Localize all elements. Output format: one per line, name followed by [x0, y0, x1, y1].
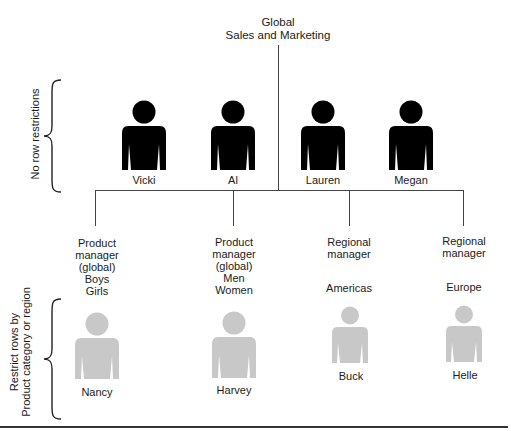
person-name-nancy: Nancy — [57, 386, 137, 398]
person-name-helle: Helle — [425, 369, 505, 381]
role-line: manager — [52, 249, 142, 261]
person-icon-harvey — [210, 311, 258, 379]
title-line-2: Sales and Marketing — [178, 29, 378, 42]
person-name-vicki: Vicki — [104, 174, 184, 186]
person-icon-vicki — [120, 100, 168, 172]
person-icon-lauren — [299, 100, 347, 172]
role-line: Product — [189, 236, 279, 248]
trunk-line — [278, 45, 279, 191]
scope-line: Women — [189, 284, 279, 296]
role-line: Regional — [419, 235, 509, 247]
role-line: manager — [419, 247, 509, 259]
role-label-regional-manager-europe: Regional manager Europe — [419, 235, 509, 293]
title-line-1: Global — [178, 16, 378, 29]
group-label-bottom-line-2: Product category or region — [20, 277, 32, 427]
scope-line: Europe — [419, 281, 509, 293]
role-line: manager — [189, 248, 279, 260]
group-label-bottom-line-1: Restrict rows by — [8, 277, 20, 427]
role-line: Product — [52, 237, 142, 249]
spacer — [304, 260, 394, 282]
brace-icon-top — [40, 78, 64, 194]
role-label-regional-manager-americas: Regional manager Americas — [304, 236, 394, 294]
person-name-harvey: Harvey — [194, 384, 274, 396]
branch-drop-3 — [349, 190, 350, 226]
person-icon-al — [209, 100, 257, 172]
org-root-title: Global Sales and Marketing — [178, 16, 378, 42]
branch-drop-4 — [463, 190, 464, 226]
scope-line: Americas — [304, 282, 394, 294]
person-icon-nancy — [73, 312, 121, 380]
person-name-megan: Megan — [371, 174, 451, 186]
bottom-rule — [0, 426, 508, 428]
group-label-restricted: Restrict rows by Product category or reg… — [8, 277, 32, 427]
spacer — [419, 259, 509, 281]
branch-drop-1 — [95, 190, 96, 226]
branch-horizontal-line — [95, 190, 464, 191]
branch-drop-2 — [233, 190, 234, 226]
scope-line: Men — [189, 272, 279, 284]
person-name-al: Al — [193, 174, 273, 186]
role-label-product-manager-men-women: Product manager (global) Men Women — [189, 236, 279, 296]
scope-line: Girls — [52, 285, 142, 297]
person-icon-helle — [445, 305, 483, 363]
person-icon-megan — [387, 100, 435, 172]
person-icon-buck — [331, 306, 369, 364]
role-line: (global) — [52, 261, 142, 273]
role-line: manager — [304, 248, 394, 260]
group-label-top-text: No row restrictions — [29, 88, 41, 179]
scope-line: Boys — [52, 273, 142, 285]
role-label-product-manager-boys-girls: Product manager (global) Boys Girls — [52, 237, 142, 297]
role-line: (global) — [189, 260, 279, 272]
group-label-no-restrictions: No row restrictions — [29, 74, 41, 194]
person-name-lauren: Lauren — [283, 174, 363, 186]
person-name-buck: Buck — [311, 370, 391, 382]
role-line: Regional — [304, 236, 394, 248]
brace-icon-bottom — [40, 297, 64, 421]
